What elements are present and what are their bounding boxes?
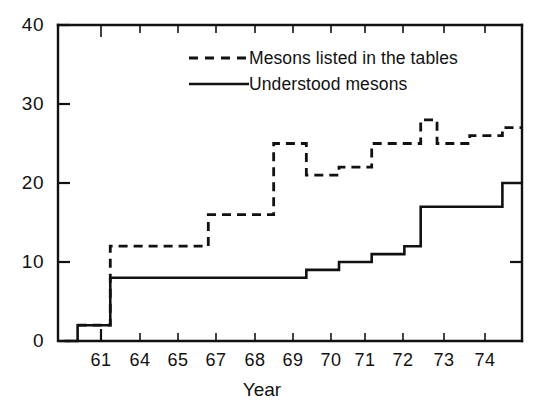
- x-tick-label-71: 71: [354, 350, 375, 371]
- x-tick-label-67: 67: [205, 350, 226, 371]
- x-axis-title: Year: [243, 379, 281, 401]
- x-tick-label-68: 68: [244, 350, 265, 371]
- x-tick-label-61: 61: [90, 350, 111, 371]
- x-tick-label-73: 73: [433, 350, 454, 371]
- x-tick-label-64: 64: [129, 350, 150, 371]
- x-tick-label-74: 74: [474, 350, 495, 371]
- legend-label-understood-mesons: Understood mesons: [249, 74, 407, 95]
- series-mesons-listed: [78, 120, 522, 325]
- y-tick-label-30: 30: [0, 93, 44, 115]
- legend-dashed-swatch: [187, 51, 249, 65]
- legend-entry-understood-mesons: Understood mesons: [187, 71, 458, 97]
- legend-entry-mesons-listed: Mesons listed in the tables: [187, 45, 458, 71]
- x-tick-label-72: 72: [392, 350, 413, 371]
- legend-solid-swatch: [187, 77, 249, 91]
- x-tick-label-65: 65: [167, 350, 188, 371]
- meson-count-step-chart: 0 10 20 30 40 61 64 65 67 68 69 70 71 72…: [0, 0, 543, 414]
- y-tick-label-0: 0: [0, 330, 44, 352]
- y-tick-label-20: 20: [0, 172, 44, 194]
- x-tick-label-70: 70: [320, 350, 341, 371]
- legend-label-mesons-listed: Mesons listed in the tables: [249, 48, 458, 69]
- series-understood-mesons: [65, 183, 522, 341]
- x-tick-label-69: 69: [282, 350, 303, 371]
- y-tick-label-40: 40: [0, 14, 44, 36]
- chart-legend: Mesons listed in the tables Understood m…: [187, 45, 458, 97]
- y-tick-label-10: 10: [0, 251, 44, 273]
